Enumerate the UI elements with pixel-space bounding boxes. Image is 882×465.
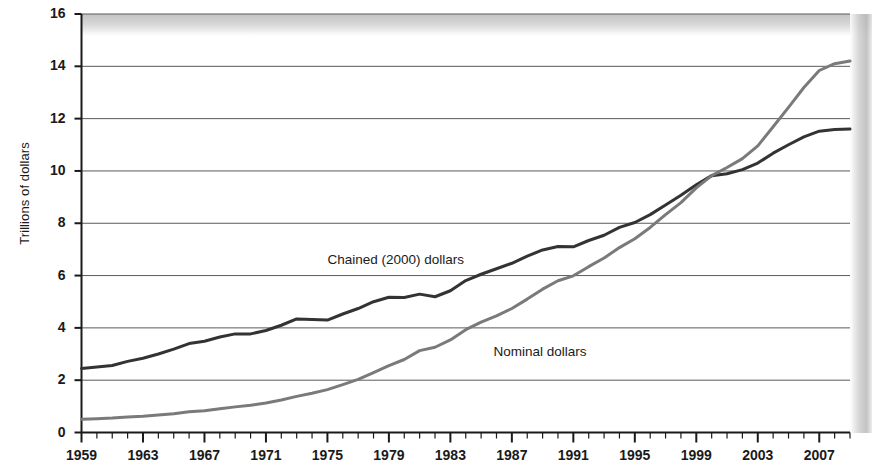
y-tick-label-4: 4: [26, 319, 66, 335]
x-tick-label-1975: 1975: [292, 447, 362, 463]
x-tick-label-1971: 1971: [231, 447, 301, 463]
y-tick-label-6: 6: [26, 267, 66, 283]
y-tick-label-16: 16: [26, 5, 66, 21]
y-tick-label-14: 14: [26, 57, 66, 73]
x-tick-label-2003: 2003: [723, 447, 793, 463]
x-tick-label-1979: 1979: [354, 447, 424, 463]
chained-dollars-label: Chained (2000) dollars: [327, 252, 464, 267]
x-tick-label-1967: 1967: [169, 447, 239, 463]
x-tick-label-1983: 1983: [415, 447, 485, 463]
x-tick-label-1999: 1999: [661, 447, 731, 463]
x-axis-minor-tick-group: [82, 433, 851, 443]
x-tick-label-1963: 1963: [108, 447, 178, 463]
y-tick-label-12: 12: [26, 110, 66, 126]
y-tick-label-0: 0: [26, 424, 66, 440]
data-series-group: [82, 61, 851, 419]
plot-area: [0, 0, 882, 465]
series-line-chained-dollars: [82, 129, 851, 368]
x-tick-label-1995: 1995: [600, 447, 670, 463]
x-tick-label-1991: 1991: [538, 447, 608, 463]
x-tick-label-1959: 1959: [47, 447, 117, 463]
nominal-dollars-label: Nominal dollars: [493, 344, 586, 359]
gdp-line-chart-figure: Trillions of dollars 0246810121416 19591…: [0, 0, 882, 465]
y-axis-tick-group: [75, 14, 82, 433]
y-tick-label-8: 8: [26, 214, 66, 230]
x-tick-label-1987: 1987: [477, 447, 547, 463]
y-tick-label-10: 10: [26, 162, 66, 178]
gridline-group: [82, 14, 851, 380]
series-line-nominal-dollars: [82, 61, 851, 419]
y-tick-label-2: 2: [26, 371, 66, 387]
x-tick-label-2007: 2007: [784, 447, 854, 463]
